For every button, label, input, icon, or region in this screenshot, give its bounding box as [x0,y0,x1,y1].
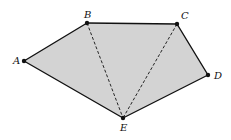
pentagon-diagram: A B C D E [0,0,231,140]
vertex-label-b: B [83,9,91,20]
vertex-label-a: A [12,55,20,66]
vertex-label-d: D [213,70,222,81]
vertex-point-e [121,116,125,120]
vertex-label-c: C [181,10,189,21]
vertex-point-c [175,22,179,26]
pentagon-shape [24,23,208,118]
vertex-point-a [22,59,26,63]
vertex-point-d [206,73,210,77]
diagram-canvas: A B C D E [0,0,231,140]
vertex-point-b [85,21,89,25]
vertex-label-e: E [119,122,128,133]
